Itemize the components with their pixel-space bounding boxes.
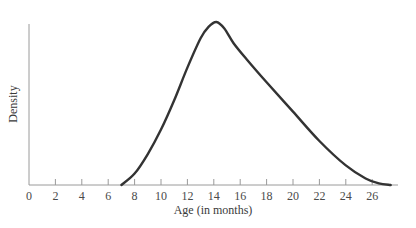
x-tick-label: 0 xyxy=(26,189,32,203)
x-tick-label: 18 xyxy=(261,189,273,203)
x-tick-label: 16 xyxy=(234,189,246,203)
x-tick-label: 8 xyxy=(132,189,138,203)
x-tick-label: 22 xyxy=(313,189,325,203)
x-tick-label: 12 xyxy=(181,189,193,203)
density-chart: 02468101214161820222426 Age (in months) … xyxy=(0,0,416,228)
x-axis-title: Age (in months) xyxy=(174,203,253,217)
x-tick-label: 24 xyxy=(340,189,352,203)
x-tick-labels: 02468101214161820222426 xyxy=(26,189,378,203)
x-tick-label: 20 xyxy=(287,189,299,203)
x-tick-label: 2 xyxy=(52,189,58,203)
x-tick-label: 4 xyxy=(79,189,85,203)
y-axis-title: Density xyxy=(6,85,20,122)
x-ticks xyxy=(55,179,372,185)
x-tick-label: 14 xyxy=(208,189,220,203)
x-tick-label: 10 xyxy=(155,189,167,203)
density-curve xyxy=(121,22,390,185)
x-tick-label: 26 xyxy=(366,189,378,203)
x-tick-label: 6 xyxy=(105,189,111,203)
